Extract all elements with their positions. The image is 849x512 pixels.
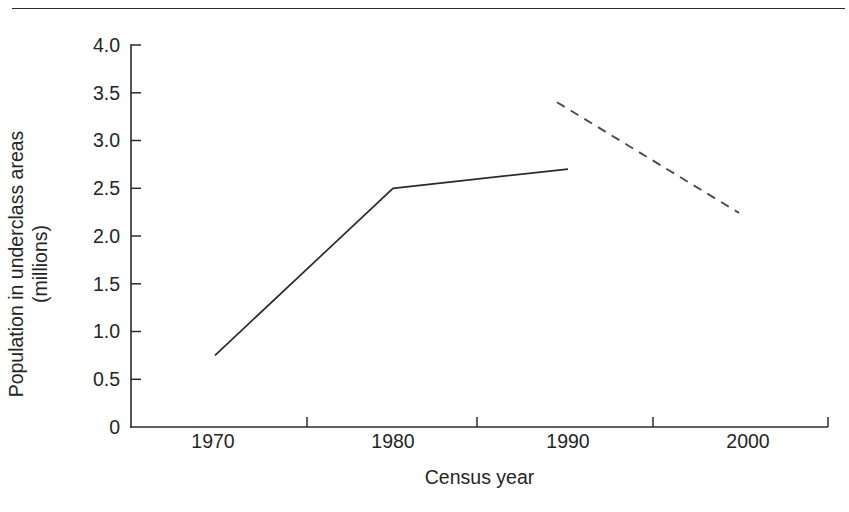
x-axis-ticks (307, 417, 828, 427)
plot-area (0, 0, 849, 512)
series-projected-line (557, 102, 739, 213)
figure-canvas: Population in underclass areas (millions… (0, 0, 849, 512)
series-observed-line (215, 169, 568, 355)
y-axis-ticks (131, 45, 141, 379)
